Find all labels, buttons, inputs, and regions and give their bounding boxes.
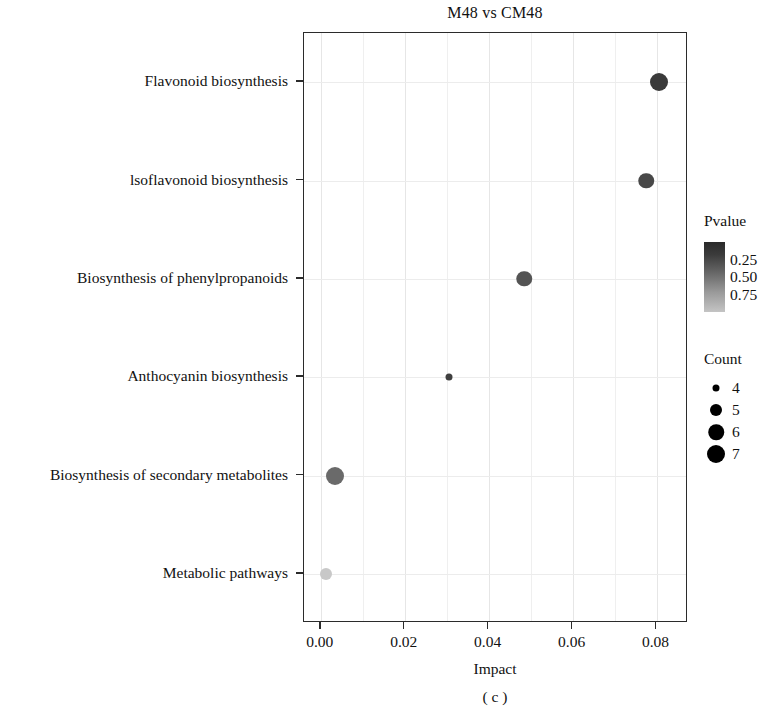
x-axis-tick-mark [655,622,657,629]
figure-caption: ( c ) [303,688,687,706]
gridline-horizontal [304,574,686,575]
gridline-vertical [363,33,364,621]
data-point[interactable] [650,73,668,91]
x-axis-title: Impact [303,660,687,678]
gridline-horizontal [304,181,686,182]
data-point[interactable] [638,173,654,189]
x-axis-tick-mark [487,622,489,629]
gridline-vertical [657,33,658,621]
gridline-horizontal [304,279,686,280]
gridline-horizontal [304,82,686,83]
gridline-vertical [615,33,616,621]
pvalue-legend-tick-label: 0.50 [730,268,757,286]
gridline-vertical [321,33,322,621]
gridline-vertical [405,33,406,621]
y-axis-tick-label: Biosynthesis of secondary metabolites [0,466,288,484]
x-axis-tick-label: 0.00 [280,633,360,651]
gridline-vertical [447,33,448,621]
y-axis-tick-mark [296,179,303,181]
count-legend-label: 4 [732,379,740,397]
gridline-vertical [573,33,574,621]
pvalue-legend-tick-label: 0.75 [730,286,757,304]
y-axis-tick-label: Metabolic pathways [0,564,288,582]
x-axis-tick-label: 0.04 [448,633,528,651]
y-axis-tick-label: Flavonoid biosynthesis [0,72,288,90]
y-axis-tick-mark [296,474,303,476]
count-legend-dot [708,424,724,440]
x-axis-tick-mark [319,622,321,629]
y-axis-tick-mark [296,572,303,574]
count-legend-title: Count [704,350,742,368]
y-axis-tick-label: Biosynthesis of phenylpropanoids [0,269,288,287]
x-axis-tick-label: 0.08 [616,633,696,651]
count-legend-dot [707,445,725,463]
count-legend-label: 7 [732,445,740,463]
count-legend-label: 6 [732,423,740,441]
pvalue-legend-tick-label: 0.25 [730,251,757,269]
pvalue-gradient-bar [704,242,725,312]
data-point[interactable] [445,374,452,381]
y-axis-tick-label: Anthocyanin biosynthesis [0,367,288,385]
x-axis-tick-mark [403,622,405,629]
y-axis-tick-mark [296,375,303,377]
data-point[interactable] [517,271,533,287]
bubble-chart-figure: M48 vs CM48 Flavonoid biosynthesislsofla… [0,0,773,720]
chart-title: M48 vs CM48 [303,4,687,22]
plot-panel [303,32,687,622]
gridline-horizontal [304,377,686,378]
data-point[interactable] [320,568,332,580]
gridline-vertical [489,33,490,621]
count-legend-label: 5 [732,401,740,419]
y-axis-tick-mark [296,277,303,279]
pvalue-legend-title: Pvalue [704,212,746,230]
gridline-horizontal [304,476,686,477]
data-point[interactable] [326,467,344,485]
x-axis-tick-label: 0.02 [364,633,444,651]
x-axis-tick-label: 0.06 [532,633,612,651]
count-legend-dot [713,385,720,392]
count-legend-dot [710,404,722,416]
y-axis-tick-mark [296,80,303,82]
y-axis-tick-label: lsoflavonoid biosynthesis [0,171,288,189]
gridline-vertical [531,33,532,621]
x-axis-tick-mark [571,622,573,629]
